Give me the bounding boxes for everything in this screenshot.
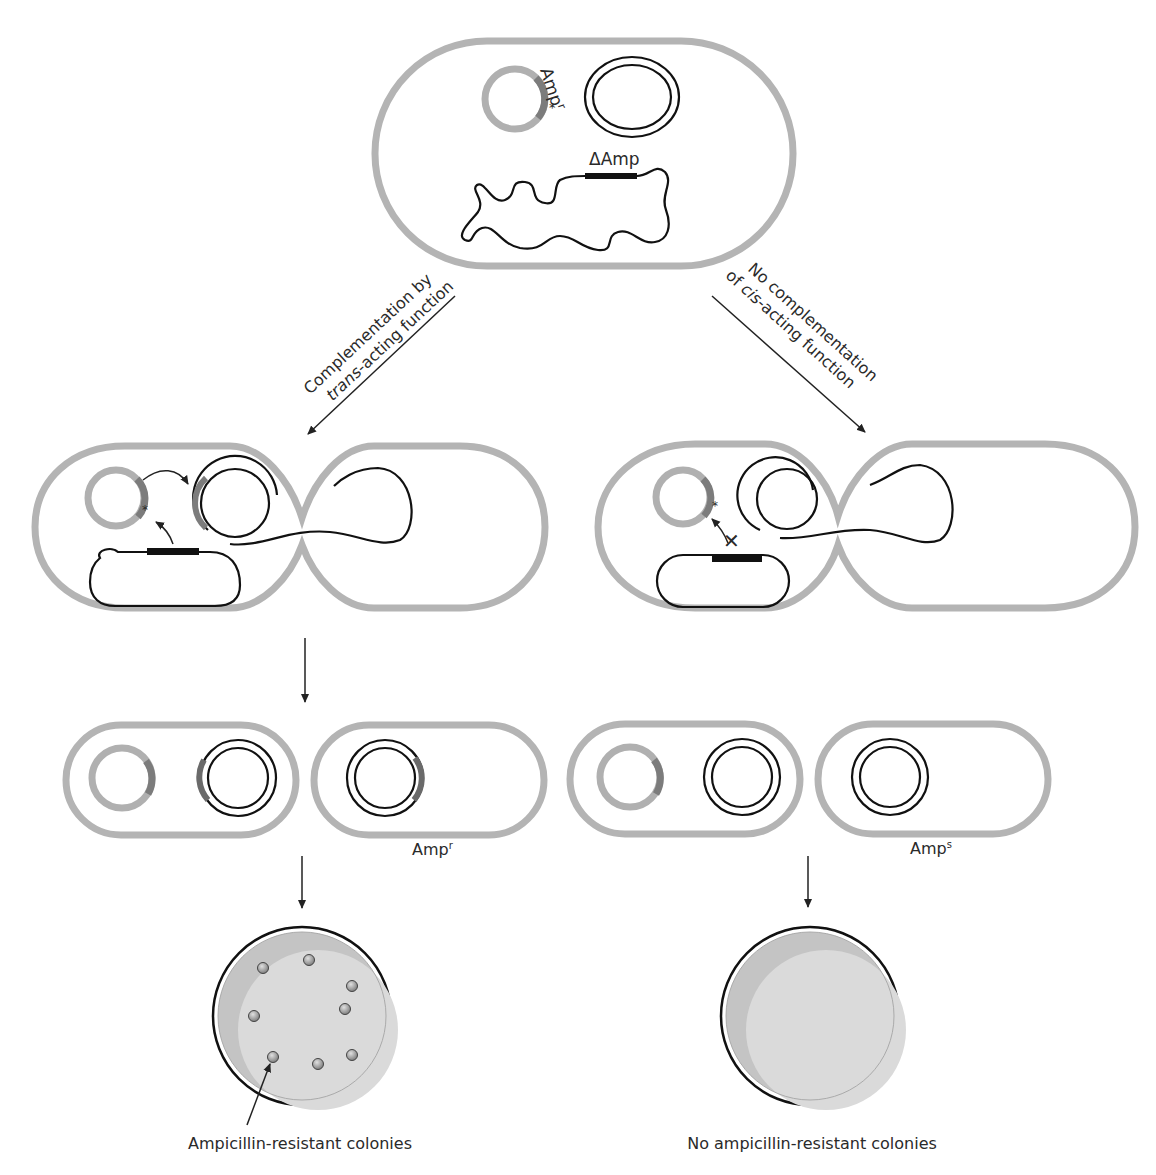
amp-r-result-label: Ampr — [412, 840, 454, 859]
plate-left-caption: Ampicillin-resistant colonies — [188, 1134, 412, 1153]
trans-pathway-label: Complementation by trans-acting function — [300, 262, 457, 413]
daughter-cells-trans — [66, 725, 544, 835]
cell-wall — [375, 41, 793, 266]
amp-s-result-label: Amps — [910, 839, 952, 858]
ds-plasmid — [585, 57, 679, 137]
svg-text:No complementation: No complementation — [744, 259, 881, 385]
block-x-icon: ✕ — [723, 529, 740, 553]
diagram-canvas: Ampr * ΔAmp Complementation by trans-act… — [0, 0, 1156, 1175]
amp-plasmid — [485, 69, 545, 129]
daughter-cell-2 — [314, 725, 544, 835]
delta-amp-region — [585, 173, 637, 179]
transfer-arrow — [143, 471, 188, 484]
top-cell — [375, 41, 793, 266]
dividing-cell-cis: * ✕ — [598, 444, 1135, 608]
mutation-star: * — [549, 100, 556, 115]
svg-text:trans-acting function: trans-acting function — [322, 277, 457, 405]
chromosome — [462, 169, 669, 250]
mutation-star: * — [712, 499, 718, 513]
plate-right-caption: No ampicillin-resistant colonies — [687, 1134, 937, 1153]
plate-ampicillin-resistant — [213, 927, 398, 1125]
daughter-cell-1 — [66, 725, 296, 835]
mutation-star: * — [142, 503, 148, 517]
trans-act-arrow — [156, 522, 173, 544]
plate-no-resistant — [721, 927, 906, 1110]
dividing-cell-trans: * — [35, 446, 545, 608]
daughter-cell-1 — [570, 724, 800, 834]
delta-amp-label: ΔAmp — [589, 149, 640, 169]
svg-text:of cis-acting function: of cis-acting function — [722, 266, 860, 392]
daughter-cells-cis — [570, 724, 1048, 834]
chromosome — [90, 549, 240, 606]
chromosome — [657, 555, 789, 607]
